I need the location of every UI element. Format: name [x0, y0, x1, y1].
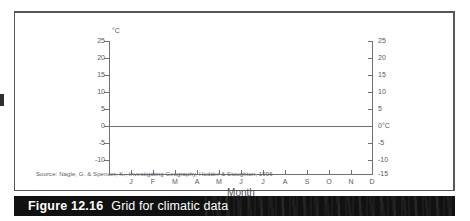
month-label: F [146, 177, 160, 186]
right-axis-tick [368, 160, 373, 161]
left-axis-tick-label: 0 [79, 122, 105, 130]
left-axis-tick-label: 20 [79, 54, 105, 62]
figure-caption-text: Grid for climatic data [111, 199, 228, 213]
month-tick [307, 170, 308, 175]
right-axis-tick [368, 58, 373, 59]
month-label: J [256, 177, 270, 186]
left-axis-tick-label: 10 [79, 88, 105, 96]
month-label: J [234, 177, 248, 186]
figure-panel: °C 25 20 15 10 5 0 -5 -10 25 20 15 10 5 [14, 11, 455, 191]
right-axis-tick-label: 10 [378, 88, 408, 96]
month-label: M [168, 177, 182, 186]
right-axis-line [372, 41, 373, 175]
right-axis-tick-label: 5 [378, 105, 408, 113]
left-axis-tick-label: 5 [79, 105, 105, 113]
climate-grid-chart: °C 25 20 15 10 5 0 -5 -10 25 20 15 10 5 [109, 27, 373, 177]
right-axis-tick [368, 92, 373, 93]
month-label: S [300, 177, 314, 186]
figure-caption-bar: Figure 12.16 Grid for climatic data [14, 196, 455, 216]
right-axis-tick-label: -15 [378, 170, 408, 178]
month-label: A [190, 177, 204, 186]
month-label: O [322, 177, 336, 186]
left-axis-tick-label: -5 [79, 139, 105, 147]
source-credit: Source: Nagle, G. & Spencer, K., Investi… [36, 171, 273, 177]
right-axis-tick-label: 15 [378, 71, 408, 79]
right-axis-zero-label: 0°C [378, 122, 408, 130]
right-axis-tick [368, 41, 373, 42]
right-axis-tick [368, 109, 373, 110]
month-tick [329, 170, 330, 175]
month-label: J [124, 177, 138, 186]
month-label: M [212, 177, 226, 186]
month-label: D [365, 177, 379, 186]
zero-reference-line [109, 126, 373, 127]
left-axis-line [109, 41, 110, 175]
scan-noise-overlay [205, 196, 455, 216]
right-axis-tick [368, 75, 373, 76]
right-axis-tick-label: -5 [378, 139, 408, 147]
month-tick [285, 170, 286, 175]
figure-number: Figure 12.16 [28, 199, 103, 213]
temperature-unit-label: °C [112, 27, 120, 35]
right-axis-tick-label: 25 [378, 37, 408, 45]
page-edge-artifact [0, 94, 4, 106]
month-label: N [344, 177, 358, 186]
right-axis-tick [368, 143, 373, 144]
month-tick [351, 170, 352, 175]
month-label: A [278, 177, 292, 186]
left-axis-tick-label: 25 [79, 37, 105, 45]
right-axis-tick-label: 20 [378, 54, 408, 62]
right-axis-tick-label: -10 [378, 156, 408, 164]
left-axis-tick-label: 15 [79, 71, 105, 79]
left-axis-tick-label: -10 [79, 156, 105, 164]
